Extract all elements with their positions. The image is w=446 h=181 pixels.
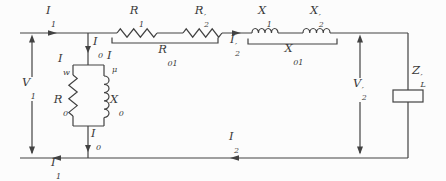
- voltage-label-v2-prime: V′2: [351, 78, 369, 102]
- i2-bottom-arrow: [230, 155, 239, 161]
- current-label-imu: Iμ: [107, 50, 117, 74]
- component-label-r2-prime: R′2: [195, 5, 209, 29]
- component-label-r0: R0: [54, 94, 68, 118]
- i1-top-arrow: [48, 30, 57, 36]
- current-label-i2-bottom: I2: [229, 131, 239, 155]
- component-label-r1: R1: [130, 5, 144, 29]
- bracket-label-x01: X01: [285, 43, 304, 67]
- current-label-i0-top: I0: [93, 36, 103, 60]
- bracket-label-r01: R01: [158, 44, 177, 68]
- inductor-x1-symbol: [252, 29, 278, 34]
- current-label-iw: Iw: [58, 53, 70, 77]
- circuit-artwork: [0, 0, 446, 181]
- component-label-x0: X0: [110, 94, 124, 118]
- resistor-r1-symbol: [117, 29, 157, 37]
- current-label-i2-prime: I′2: [230, 34, 240, 58]
- load-zl-box: [393, 90, 423, 102]
- load-label-zl-prime: Z′L: [412, 65, 426, 89]
- inductor-x0-symbol: [104, 76, 109, 118]
- current-label-i1-bottom: I1: [51, 157, 61, 181]
- resistor-r0-symbol: [69, 75, 77, 116]
- voltage-label-v1: V1: [20, 77, 38, 101]
- circuit-diagram: I1 R1 R′2 X1 X′2 R01 X01 I′2 I0 Iw Iμ R0…: [0, 0, 446, 181]
- component-label-x1: X1: [258, 5, 272, 29]
- current-label-i1-top: I1: [46, 5, 56, 29]
- current-label-i0-bottom: I0: [91, 128, 101, 152]
- i0-top-arrow: [85, 46, 91, 53]
- component-label-x2-prime: X′2: [310, 5, 324, 29]
- inductor-x2-symbol: [303, 29, 330, 34]
- resistor-r2-symbol: [183, 29, 222, 37]
